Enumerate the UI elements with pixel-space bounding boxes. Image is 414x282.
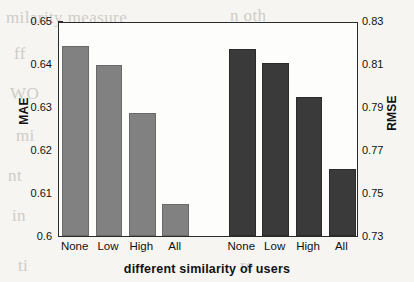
y-axis-left-tick-label: 0.61 [31,187,52,199]
y-axis-right-title: RMSE [385,83,399,143]
y-axis-right-tick-label: 0.77 [362,144,383,156]
x-axis-category-label: None [225,240,258,252]
bar [162,204,189,236]
y-axis-left-tick-label: 0.6 [37,230,52,242]
bar [96,65,123,236]
bar [262,63,289,236]
y-axis-right-tick-label: 0.83 [362,15,383,27]
bar [329,169,356,236]
x-axis-category-label: Low [91,240,124,252]
y-axis-left-tick-label: 0.63 [31,101,52,113]
x-axis-category-label: None [58,240,91,252]
bar-chart-figure: MAE RMSE different similarity of users 0… [0,0,414,282]
x-axis-category-label: High [125,240,158,252]
plot-area [58,22,358,237]
y-axis-left-tick-label: 0.62 [31,144,52,156]
y-axis-left-tick-label: 0.64 [31,58,52,70]
x-axis-category-label: Low [258,240,291,252]
x-axis-category-label: All [325,240,358,252]
bar [129,113,156,236]
y-axis-left-tick-label: 0.65 [31,15,52,27]
bar [229,49,256,236]
y-axis-left-title: MAE [17,81,31,141]
x-axis-category-label: High [291,240,324,252]
y-axis-right-tick-label: 0.81 [362,58,383,70]
x-axis-category-label: All [158,240,191,252]
x-axis-title: different similarity of users [0,262,414,276]
bar [296,97,323,236]
bar [62,46,89,236]
y-axis-right-tick-label: 0.73 [362,230,383,242]
y-axis-right-tick-label: 0.79 [362,101,383,113]
y-axis-right-tick-label: 0.75 [362,187,383,199]
